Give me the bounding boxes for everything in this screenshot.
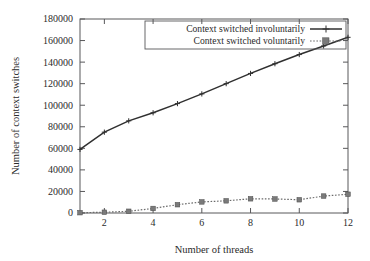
x-tick-label: 2 xyxy=(102,217,107,228)
y-tick-label: 160000 xyxy=(43,35,73,46)
legend-label-voluntary: Context switched voluntarily xyxy=(194,35,306,46)
data-point-marker xyxy=(175,202,180,207)
y-axis-title: Number of context switches xyxy=(10,57,21,175)
y-tick-label: 80000 xyxy=(48,121,73,132)
y-tick-label: 60000 xyxy=(48,143,73,154)
y-tick-label: 100000 xyxy=(43,100,73,111)
x-tick-label: 12 xyxy=(343,217,353,228)
x-axis-title: Number of threads xyxy=(175,244,254,255)
data-point-marker xyxy=(224,199,229,204)
legend-label-involuntary: Context switched involuntarily xyxy=(186,23,305,34)
x-tick-label: 8 xyxy=(248,217,253,228)
context-switch-line-chart: 0200004000060000800001000001200001400001… xyxy=(0,0,370,261)
data-point-marker xyxy=(126,209,131,214)
legend-marker-square-icon xyxy=(323,38,329,44)
data-point-marker xyxy=(248,196,253,201)
y-tick-label: 140000 xyxy=(43,57,73,68)
y-tick-label: 0 xyxy=(68,207,73,218)
data-point-marker xyxy=(346,192,351,197)
y-tick-label: 20000 xyxy=(48,186,73,197)
x-tick-label: 6 xyxy=(199,217,204,228)
x-tick-label: 4 xyxy=(151,217,156,228)
data-point-marker xyxy=(102,210,107,215)
data-point-marker xyxy=(321,194,326,199)
data-point-marker xyxy=(151,206,156,211)
chart-figure: 0200004000060000800001000001200001400001… xyxy=(0,0,370,261)
y-tick-label: 180000 xyxy=(43,13,73,24)
y-tick-label: 120000 xyxy=(43,78,73,89)
y-tick-label: 40000 xyxy=(48,164,73,175)
data-point-marker xyxy=(78,210,83,215)
data-point-marker xyxy=(297,197,302,202)
data-point-marker xyxy=(273,197,278,202)
data-point-marker xyxy=(200,200,205,205)
x-tick-label: 10 xyxy=(294,217,304,228)
